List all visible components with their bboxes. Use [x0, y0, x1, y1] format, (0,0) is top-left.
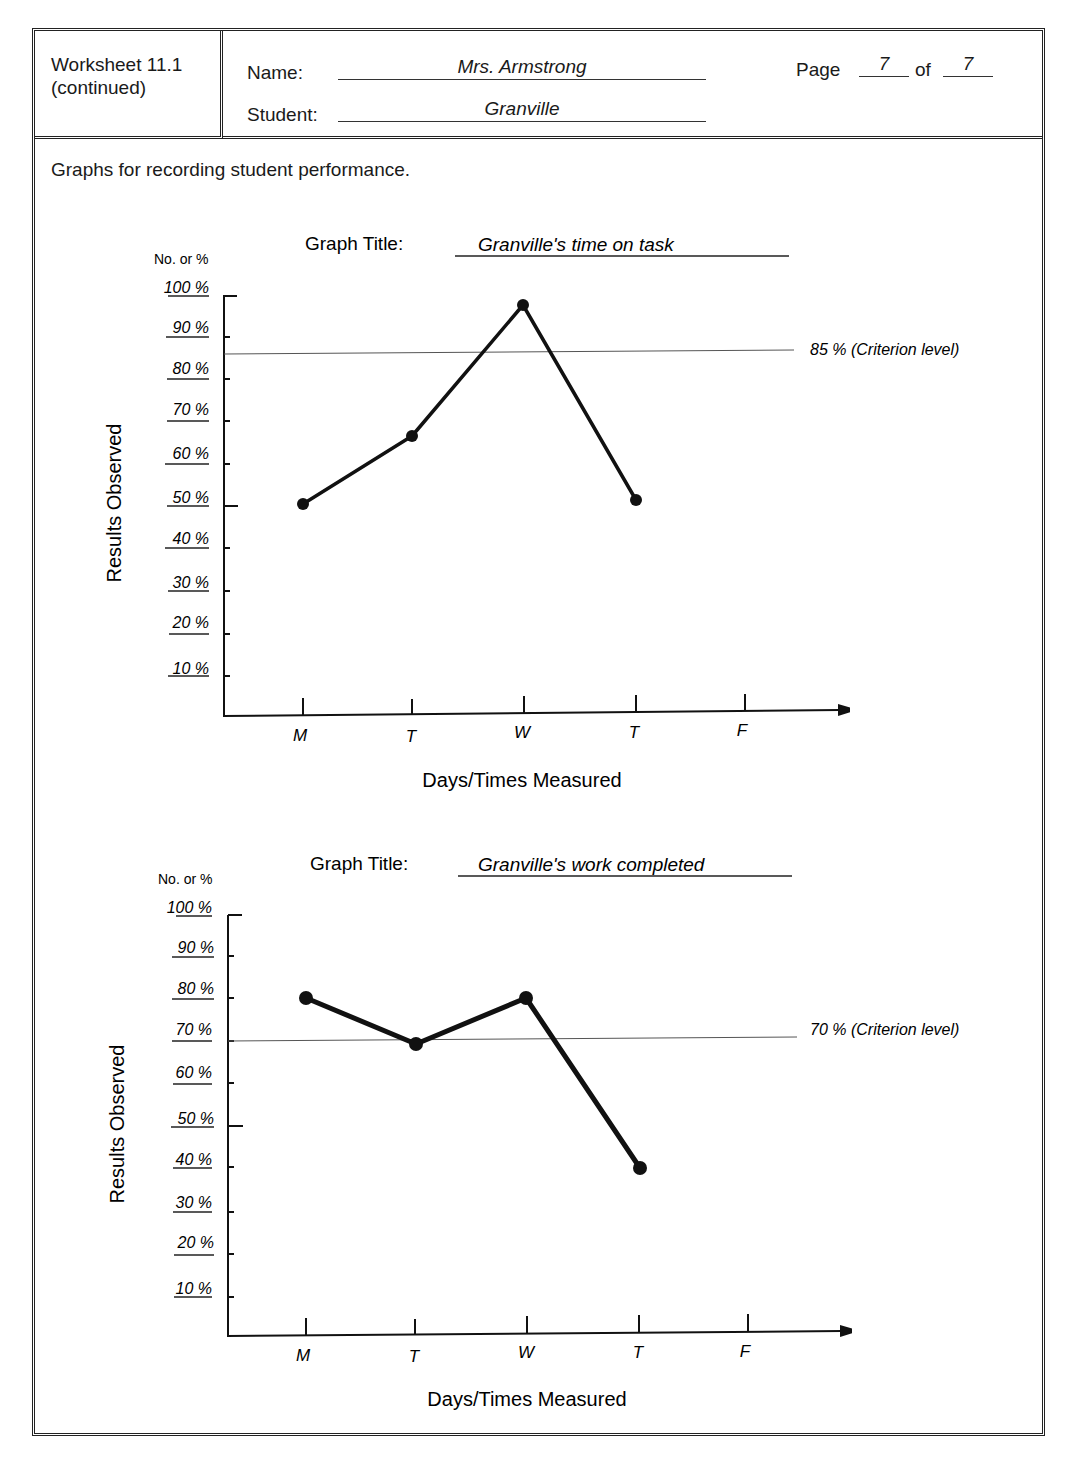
- x-axis-title: Days/Times Measured: [427, 1388, 626, 1410]
- y-tick-labels: 100 % 90 % 80 % 70 % 60 % 50 % 40 % 30 %…: [164, 279, 209, 677]
- svg-text:M: M: [293, 726, 308, 745]
- svg-text:70 %: 70 %: [173, 401, 209, 418]
- svg-text:70 %: 70 %: [176, 1021, 212, 1038]
- svg-text:F: F: [737, 721, 749, 740]
- svg-text:80 %: 80 %: [173, 360, 209, 377]
- svg-text:30 %: 30 %: [176, 1194, 212, 1211]
- svg-text:80 %: 80 %: [178, 980, 214, 997]
- graph-title-label: Graph Title:: [305, 233, 403, 254]
- svg-text:60 %: 60 %: [173, 445, 209, 462]
- x-axis-title: Days/Times Measured: [422, 769, 621, 791]
- svg-text:90 %: 90 %: [173, 319, 209, 336]
- svg-text:10 %: 10 %: [173, 660, 209, 677]
- y-unit-label: No. or %: [158, 871, 212, 887]
- svg-text:90 %: 90 %: [178, 939, 214, 956]
- svg-text:50 %: 50 %: [173, 489, 209, 506]
- y-axis-title: Results Observed: [106, 1045, 128, 1204]
- x-tick-labels: M T W T F: [293, 721, 749, 746]
- data-line: [306, 998, 640, 1168]
- criterion-line: [224, 350, 794, 354]
- graph-title: Granville's time on task: [478, 234, 675, 255]
- graph-title: Granville's work completed: [478, 854, 706, 875]
- svg-text:40 %: 40 %: [173, 530, 209, 547]
- data-line: [303, 305, 636, 504]
- svg-text:W: W: [518, 1343, 536, 1362]
- y-unit-label: No. or %: [154, 251, 208, 267]
- criterion-line: [228, 1037, 797, 1041]
- x-axis: [227, 1331, 842, 1336]
- svg-text:50 %: 50 %: [178, 1110, 214, 1127]
- svg-text:60 %: 60 %: [176, 1064, 212, 1081]
- svg-text:30 %: 30 %: [173, 574, 209, 591]
- criterion-label: 85 % (Criterion level): [810, 341, 959, 358]
- data-points: [297, 299, 642, 510]
- charts-canvas: Graph Title: Granville's time on task No…: [0, 0, 1075, 1467]
- svg-text:20 %: 20 %: [172, 614, 209, 631]
- y-axis-title: Results Observed: [103, 424, 125, 583]
- svg-text:F: F: [740, 1342, 752, 1361]
- svg-text:10 %: 10 %: [176, 1280, 212, 1297]
- svg-text:W: W: [514, 723, 532, 742]
- chart-work-completed: Graph Title: Granville's work completed …: [106, 853, 959, 1410]
- svg-text:100 %: 100 %: [164, 279, 209, 296]
- x-axis: [223, 710, 840, 716]
- svg-text:T: T: [409, 1347, 421, 1366]
- criterion-label: 70 % (Criterion level): [810, 1021, 959, 1038]
- svg-text:T: T: [406, 727, 418, 746]
- svg-text:20 %: 20 %: [177, 1234, 214, 1251]
- x-tick-labels: M T W T F: [296, 1342, 752, 1366]
- svg-text:M: M: [296, 1346, 311, 1365]
- svg-text:40 %: 40 %: [176, 1151, 212, 1168]
- graph-title-label: Graph Title:: [310, 853, 408, 874]
- svg-text:T: T: [633, 1343, 645, 1362]
- y-tick-labels: 100 % 90 % 80 % 70 % 60 % 50 % 40 % 30 %…: [167, 899, 214, 1297]
- svg-text:100 %: 100 %: [167, 899, 212, 916]
- svg-text:T: T: [629, 723, 641, 742]
- chart-time-on-task: Graph Title: Granville's time on task No…: [103, 233, 959, 791]
